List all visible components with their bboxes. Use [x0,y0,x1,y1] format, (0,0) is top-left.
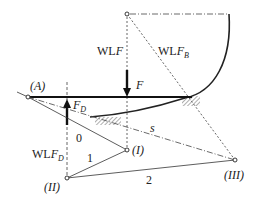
label-wl-FD-symbol: F [51,147,58,161]
point-II [65,176,69,180]
point-top [125,12,129,16]
label-ray-2: 2 [146,174,152,186]
label-wl-FB-symbol: F [177,44,184,58]
label-force-FD: FD [73,99,86,114]
label-pole-III: (III) [224,169,244,181]
label-pole-I: (I) [132,144,144,156]
label-wl-F-symbol: F [116,44,123,58]
label-wl-FD: WLFD [32,148,64,163]
label-wl-FB-prefix: WL [158,44,177,58]
label-wl-F-prefix: WL [97,44,116,58]
label-point-A: (A) [30,80,45,92]
point-III [233,158,237,162]
label-force-FD-subscript: D [80,105,86,114]
label-ray-0: 0 [76,132,82,144]
label-wl-F: WLF [97,45,123,57]
label-force-F: F [136,79,143,91]
label-pole-II: (II) [44,181,60,193]
label-closing-line-s: s [150,122,155,134]
force-FD-arrowhead [63,99,71,108]
label-wl-FD-subscript: D [58,154,64,163]
guide-curve [90,14,229,117]
force-F-arrowhead [123,88,131,97]
label-wl-FB: WLFB [158,45,189,60]
diagram-canvas: (A) WLF WLFB F FD WLFD 0 1 2 s (I) (II) … [0,0,265,199]
point-I [125,148,129,152]
point-A [26,95,30,99]
label-wl-FB-subscript: B [184,51,189,60]
ray-1 [67,150,127,178]
label-wl-FD-prefix: WL [32,147,51,161]
label-ray-1: 1 [87,152,93,164]
